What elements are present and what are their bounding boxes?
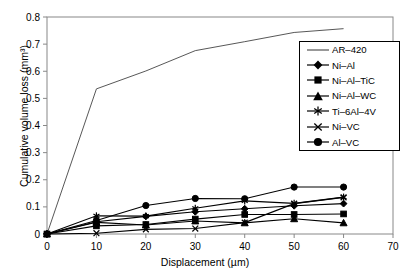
legend-symbol-line-icon (305, 43, 331, 57)
legend-item[interactable]: Ni–Al–WC (300, 88, 399, 103)
legend-symbol-circle-icon (305, 135, 331, 149)
legend-label: Ti–6Al–4V (331, 106, 376, 117)
data-point (242, 212, 248, 218)
x-tick-label: 60 (338, 241, 350, 252)
x-tick-label: 0 (44, 241, 50, 252)
legend: AR–420 Ni–Al Ni–Al–TiC Ni–Al–WC Ti–6Al–4… (299, 41, 400, 151)
data-point (291, 184, 297, 190)
data-point (340, 184, 346, 190)
x-axis-title: Displacement (µm) (60, 256, 350, 268)
x-tick-label: 20 (140, 241, 152, 252)
legend-symbol-diamond-icon (305, 58, 331, 72)
x-tick-label: 30 (190, 241, 202, 252)
y-tick-label: 0 (34, 229, 40, 240)
data-point (192, 195, 198, 201)
y-axis-title: Cumulative volume loss (mm³) (18, 21, 30, 211)
legend-item[interactable]: Ni–Al (300, 57, 399, 72)
legend-symbol-square-icon (305, 73, 331, 87)
chart-figure: 00.10.20.30.40.50.60.70.8010203040506070… (0, 0, 403, 277)
legend-symbol-asterisk-icon (305, 104, 331, 118)
data-point (340, 200, 347, 207)
legend-label: Ni–Al (331, 60, 355, 71)
x-tick-label: 10 (91, 241, 103, 252)
legend-symbol-triangle-icon (305, 89, 331, 103)
legend-label: Al–VC (331, 137, 359, 148)
x-tick-label: 70 (387, 241, 399, 252)
x-tick-label: 40 (239, 241, 251, 252)
legend-item[interactable]: Ni–Al–TiC (300, 73, 399, 88)
legend-item[interactable]: AR–420 (300, 42, 399, 57)
legend-label: Ni–Al–WC (331, 90, 376, 101)
legend-item[interactable]: Ti–6Al–4V (300, 104, 399, 119)
data-point (143, 202, 149, 208)
data-point (241, 205, 248, 212)
data-point (44, 231, 50, 237)
legend-item[interactable]: Ni–VC (300, 119, 399, 134)
legend-label: AR–420 (331, 44, 367, 55)
legend-label: Ni–Al–TiC (331, 75, 375, 86)
legend-label: Ni–VC (331, 121, 360, 132)
data-point (242, 196, 248, 202)
legend-item[interactable]: Al–VC (300, 134, 399, 149)
data-point (341, 211, 347, 217)
data-point (93, 217, 99, 223)
legend-symbol-x-icon (305, 120, 331, 134)
x-tick-label: 50 (289, 241, 301, 252)
